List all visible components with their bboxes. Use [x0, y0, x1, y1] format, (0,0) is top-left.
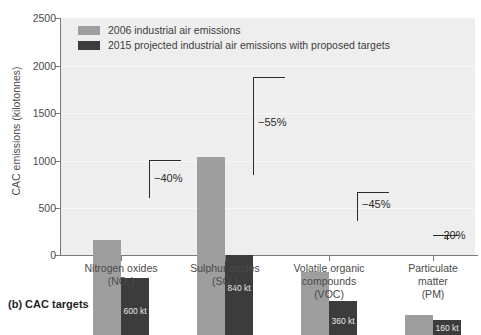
x-axis-label-line-2-sox: (SOx): [165, 275, 285, 292]
x-tick-mark-pm: [433, 255, 434, 261]
nox-open: (NO: [108, 275, 127, 287]
x-axis-label-line-1-nox: Nitrogen oxides: [61, 262, 181, 275]
x-axis-label-line-1-voc: Volatile organic: [269, 262, 389, 275]
annotation-drop-line-sox: [253, 77, 254, 175]
x-axis-label-nitrogen-oxides: Nitrogen oxides (NOx): [61, 262, 181, 292]
x-axis-label-sulphur-oxides: Sulphur oxides (SOx): [165, 262, 285, 292]
bar-2015-voc: 360 kt: [329, 301, 357, 335]
y-tick-label-1500: 1500: [20, 108, 56, 118]
y-tick-label-0: 0: [20, 250, 56, 260]
y-axis-title: CAC emissions (kilotonnes): [10, 31, 22, 231]
x-tick-mark-nox: [121, 255, 122, 261]
x-tick-mark-voc: [329, 255, 330, 261]
annotation-drop-line-nox: [149, 160, 150, 198]
bar-2006-sox: [197, 157, 225, 335]
legend-label-2006: 2006 industrial air emissions: [108, 25, 240, 36]
figure-caption: (b) CAC targets: [8, 298, 89, 310]
x-axis-label-line-2-nox: (NOx): [61, 275, 181, 292]
x-axis-label-line-2-pm: matter: [378, 275, 481, 288]
x-axis-label-line-2-voc: compounds: [269, 275, 389, 288]
sox-close: ): [234, 275, 238, 287]
bar-value-label-pm: 160 kt: [433, 323, 461, 333]
x-axis-label-line-3-voc: (VOC): [269, 288, 389, 301]
nox-close: ): [131, 275, 135, 287]
sox-open: (SO: [212, 275, 231, 287]
annotation-reduction-pm: −20%: [437, 229, 465, 241]
legend-item-2006: 2006 industrial air emissions: [78, 25, 390, 36]
bar-value-label-voc: 360 kt: [329, 316, 357, 326]
bar-2006-pm: [405, 315, 433, 335]
annotation-drop-line-voc: [357, 192, 358, 221]
annotation-top-line-sox: [253, 77, 285, 78]
y-tick-label-500: 500: [20, 203, 56, 213]
y-tick-label-2500: 2500: [20, 13, 56, 23]
y-tick-0: 0: [12, 250, 56, 260]
x-axis-label-voc: Volatile organic compounds (VOC): [269, 262, 389, 301]
x-axis-label-line-1-sox: Sulphur oxides: [165, 262, 285, 275]
gridline-2000: [61, 66, 475, 67]
x-axis-label-line-1-pm: Particulate: [378, 262, 481, 275]
y-tick-label-2000: 2000: [20, 61, 56, 71]
legend-swatch-icon-2006: [78, 26, 100, 35]
x-tick-mark-sox: [225, 255, 226, 261]
y-tick-label-1000: 1000: [20, 156, 56, 166]
x-axis-label-particulate-matter: Particulate matter (PM): [378, 262, 481, 301]
legend-label-2015: 2015 projected industrial air emissions …: [108, 40, 390, 51]
chart-legend: 2006 industrial air emissions 2015 proje…: [78, 25, 390, 55]
bar-2015-pm: 160 kt: [433, 320, 461, 335]
y-tick-2500: 2500: [12, 13, 56, 23]
x-axis-label-line-3-pm: (PM): [378, 288, 481, 301]
legend-swatch-icon-2015: [78, 41, 100, 50]
bar-value-label-nox: 600 kt: [121, 306, 149, 316]
legend-item-2015: 2015 projected industrial air emissions …: [78, 40, 390, 51]
